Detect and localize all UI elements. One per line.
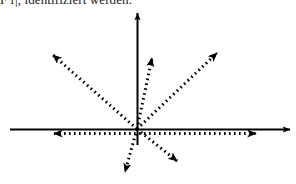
vector-lower-right xyxy=(137,129,177,161)
vector-upper-left xyxy=(53,55,137,129)
diagram-page: F r|, identifiziert werden. xyxy=(0,0,296,184)
vector-lower-left xyxy=(125,129,137,172)
vector-upper-right-shallow xyxy=(137,53,217,129)
vector-diagram xyxy=(0,0,296,184)
